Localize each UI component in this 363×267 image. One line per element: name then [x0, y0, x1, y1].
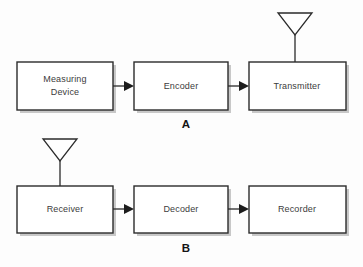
arrow-head [124, 81, 134, 91]
block-label-line-1: Measuring [43, 74, 86, 84]
arrow-measuring-to-encoder [113, 81, 134, 91]
block-label: Encoder [164, 81, 199, 91]
arrow-decoder-to-recorder [228, 204, 249, 214]
arrow-encoder-to-transmitter [228, 81, 249, 91]
arrow-head [124, 204, 134, 214]
block-decoder[interactable]: Decoder [134, 186, 231, 236]
block-outline [17, 62, 113, 110]
antenna-triangle-transmitter [278, 13, 312, 35]
antenna-icon-receiver [43, 139, 77, 186]
block-label: Receiver [47, 204, 84, 214]
section-b: Receiver Decoder Recorde [17, 139, 349, 254]
block-receiver[interactable]: Receiver [17, 186, 116, 236]
arrow-head [239, 204, 249, 214]
antenna-triangle-receiver [43, 139, 77, 161]
arrow-receiver-to-decoder [113, 204, 134, 214]
block-label: Decoder [163, 204, 198, 214]
block-label-line-2: Device [51, 87, 79, 97]
block-label: Transmitter [274, 81, 321, 91]
diagram-canvas: Measuring Device Encoder [0, 0, 363, 267]
arrow-head [239, 81, 249, 91]
block-measuring-device[interactable]: Measuring Device [17, 62, 116, 113]
antenna-icon-transmitter [278, 13, 312, 62]
section-label-b: B [182, 242, 191, 254]
block-transmitter[interactable]: Transmitter [249, 62, 349, 113]
section-a: Measuring Device Encoder [17, 13, 349, 130]
block-diagram-svg: Measuring Device Encoder [0, 0, 363, 267]
block-label: Recorder [278, 204, 316, 214]
block-encoder[interactable]: Encoder [134, 62, 231, 113]
block-recorder[interactable]: Recorder [249, 186, 349, 236]
section-label-a: A [182, 118, 191, 130]
